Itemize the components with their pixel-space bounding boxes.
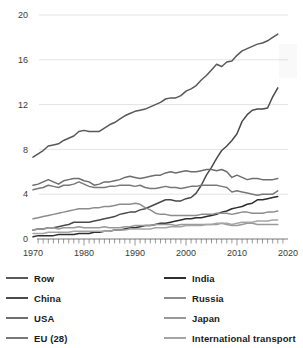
legend-item-label: USA bbox=[34, 313, 54, 324]
series-line-row bbox=[33, 34, 278, 157]
series-line-international-transport bbox=[33, 220, 278, 233]
series-line-india bbox=[33, 196, 278, 236]
legend-item-label: Russia bbox=[192, 293, 224, 304]
plot-area: 048121620 197019801990200020102020 bbox=[0, 0, 303, 265]
series-lines bbox=[33, 34, 278, 237]
legend-item-label: International transport bbox=[192, 333, 296, 344]
y-tick-label: 8 bbox=[23, 145, 28, 155]
x-tick-label: 1970 bbox=[23, 248, 43, 258]
legend-swatch-icon bbox=[6, 297, 28, 299]
legend-swatch-icon bbox=[164, 337, 186, 339]
legend-swatch-icon bbox=[164, 297, 186, 299]
legend-item-usa[interactable]: USA bbox=[6, 313, 164, 324]
gridlines bbox=[39, 15, 288, 194]
legend-item-row[interactable]: Row bbox=[6, 273, 164, 284]
legend-item-label: China bbox=[34, 293, 61, 304]
x-tick-label: 2020 bbox=[278, 248, 298, 258]
legend-swatch-icon bbox=[164, 277, 186, 279]
y-tick-label: 20 bbox=[18, 10, 28, 20]
legend-item-japan[interactable]: Japan bbox=[164, 313, 303, 324]
legend-item-label: India bbox=[192, 273, 215, 284]
line-chart: 048121620 197019801990200020102020 RowIn… bbox=[0, 0, 303, 348]
series-line-usa bbox=[33, 170, 278, 186]
legend-swatch-icon bbox=[164, 317, 186, 319]
x-tick-label: 1990 bbox=[125, 248, 145, 258]
legend-item-russia[interactable]: Russia bbox=[164, 293, 303, 304]
y-tick-label: 12 bbox=[18, 100, 28, 110]
series-line-eu-28 bbox=[33, 182, 278, 195]
chart-legend: RowIndiaChinaRussiaUSAJapanEU (28)Intern… bbox=[0, 266, 303, 348]
legend-item-eu-28[interactable]: EU (28) bbox=[6, 333, 164, 344]
series-line-russia bbox=[33, 203, 278, 219]
x-tick-label: 1980 bbox=[74, 248, 94, 258]
legend-swatch-icon bbox=[6, 317, 28, 319]
x-axis-labels: 197019801990200020102020 bbox=[23, 248, 298, 258]
legend-item-india[interactable]: India bbox=[164, 273, 303, 284]
y-axis-labels: 048121620 bbox=[18, 10, 28, 244]
y-tick-label: 16 bbox=[18, 55, 28, 65]
x-axis bbox=[37, 239, 288, 246]
legend-swatch-icon bbox=[6, 337, 28, 339]
x-tick-label: 2000 bbox=[176, 248, 196, 258]
y-tick-label: 0 bbox=[23, 234, 28, 244]
series-line-china bbox=[33, 88, 278, 230]
legend-item-label: Japan bbox=[192, 313, 220, 324]
legend-item-label: EU (28) bbox=[34, 333, 67, 344]
legend-swatch-icon bbox=[6, 277, 28, 279]
plot-svg: 048121620 197019801990200020102020 bbox=[0, 0, 303, 265]
legend-item-international-transport[interactable]: International transport bbox=[164, 333, 303, 344]
legend-item-label: Row bbox=[34, 273, 54, 284]
y-tick-label: 4 bbox=[23, 189, 28, 199]
legend-item-china[interactable]: China bbox=[6, 293, 164, 304]
x-tick-label: 2010 bbox=[227, 248, 247, 258]
